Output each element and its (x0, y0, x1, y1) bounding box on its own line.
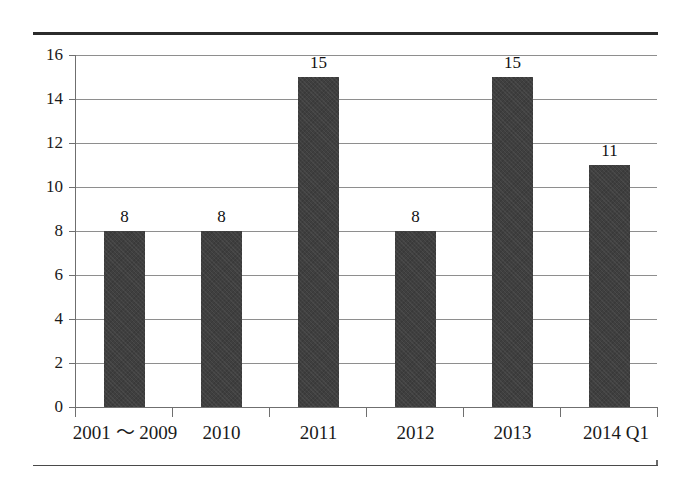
x-tick-boundary-5 (560, 408, 561, 417)
bottom-rule-end-mark (656, 460, 658, 465)
y-axis-label-8: 8 (23, 222, 63, 239)
y-axis-label-12: 12 (23, 134, 63, 151)
gridline-2 (76, 363, 657, 364)
bar-2011[interactable] (298, 77, 339, 407)
x-axis-category-label-2013: 2013 (482, 421, 543, 445)
bar-value-2011: 15 (288, 54, 349, 71)
x-tick-boundary-3 (366, 408, 367, 417)
y-axis-label-4-wrap: 4 (0, 310, 63, 327)
y-tick-10 (69, 187, 76, 188)
x-tick-boundary-4 (463, 408, 464, 417)
bar-2001-2009[interactable] (104, 231, 145, 407)
y-axis-label-10-wrap: 10 (0, 178, 63, 195)
y-axis-label-10: 10 (23, 178, 63, 195)
bar-chart: 16 14 12 10 8 6 4 2 0 (0, 0, 699, 498)
bar-2013[interactable] (492, 77, 533, 407)
y-axis-label-0-wrap: 0 (0, 398, 63, 415)
x-axis-category-label-2012: 2012 (385, 421, 446, 445)
x-tick-boundary-0 (75, 408, 76, 417)
page-canvas: 16 14 12 10 8 6 4 2 0 (0, 0, 699, 498)
y-tick-8 (69, 231, 76, 232)
bar-value-2013: 15 (482, 54, 543, 71)
x-tick-boundary-2 (269, 408, 270, 417)
x-tick-boundary-1 (172, 408, 173, 417)
y-axis-label-4: 4 (23, 310, 63, 327)
y-axis-label-12-wrap: 12 (0, 134, 63, 151)
x-axis-category-label-2011: 2011 (288, 421, 349, 445)
gridline-14 (76, 99, 657, 100)
bar-2010[interactable] (201, 231, 242, 407)
bar-2012[interactable] (395, 231, 436, 407)
y-tick-16 (69, 55, 76, 56)
gridline-16 (76, 55, 657, 56)
gridline-8 (76, 231, 657, 232)
y-tick-14 (69, 99, 76, 100)
bar-value-2014-q1: 11 (579, 142, 640, 159)
bar-value-2012: 8 (385, 208, 446, 225)
plot-area (76, 55, 657, 407)
y-axis-label-8-wrap: 8 (0, 222, 63, 239)
bar-value-2010: 8 (191, 208, 252, 225)
y-axis-label-0: 0 (23, 398, 63, 415)
y-tick-2 (69, 363, 76, 364)
y-axis-label-16: 16 (23, 46, 63, 63)
y-axis-label-6: 6 (23, 266, 63, 283)
x-axis-category-label-2010: 2010 (191, 421, 252, 445)
gridline-12 (76, 143, 657, 144)
y-axis-label-2: 2 (23, 354, 63, 371)
y-axis-label-16-wrap: 16 (0, 46, 63, 63)
y-tick-6 (69, 275, 76, 276)
gridline-6 (76, 275, 657, 276)
y-axis-label-14: 14 (23, 90, 63, 107)
y-axis-label-2-wrap: 2 (0, 354, 63, 371)
y-axis-label-6-wrap: 6 (0, 266, 63, 283)
x-axis-category-label-2014-q1: 2014 Q1 (566, 421, 666, 445)
y-axis-label-14-wrap: 14 (0, 90, 63, 107)
y-tick-12 (69, 143, 76, 144)
bar-value-2001-2009: 8 (94, 208, 155, 225)
x-axis-category-label-2001-2009: 2001 ～ 2009 (50, 421, 200, 445)
bottom-horizontal-rule (33, 465, 658, 466)
gridline-10 (76, 187, 657, 188)
bar-2014-q1[interactable] (589, 165, 630, 407)
y-tick-4 (69, 319, 76, 320)
gridline-4 (76, 319, 657, 320)
x-tick-boundary-6 (657, 408, 658, 417)
